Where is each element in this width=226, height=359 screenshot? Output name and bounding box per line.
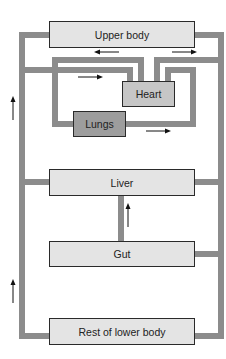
pipe-left-outer <box>19 32 25 339</box>
node-gut-label: Gut <box>114 248 131 260</box>
arrow-right-icon <box>78 74 104 80</box>
node-lungs-label: Lungs <box>85 118 114 130</box>
node-upper-body: Upper body <box>49 21 195 48</box>
pipe-aorta-top <box>154 57 224 63</box>
pipe-upper-right-stub <box>194 32 224 38</box>
arrow-right-icon <box>146 128 172 134</box>
node-lungs: Lungs <box>73 111 126 137</box>
node-gut: Gut <box>49 241 195 267</box>
pipe-lower-right <box>194 333 224 339</box>
node-heart: Heart <box>122 81 175 107</box>
node-lower-body-label: Rest of lower body <box>79 326 166 338</box>
arrow-up-icon <box>10 96 16 120</box>
pipe-to-heart-horizontal <box>19 67 133 73</box>
pipe-portal-vein <box>118 194 124 242</box>
pipe-to-heart-vertical <box>127 67 133 82</box>
arrow-up-icon <box>10 279 16 303</box>
node-upper-body-label: Upper body <box>95 29 149 41</box>
pipe-pulmonary-heart-down <box>138 57 144 82</box>
node-lower-body: Rest of lower body <box>49 318 195 345</box>
pipe-liver-left <box>19 179 50 185</box>
pipe-gut-right <box>194 251 224 257</box>
pipe-lower-left <box>19 333 50 339</box>
node-liver-label: Liver <box>111 177 134 189</box>
arrow-right-icon <box>172 49 198 55</box>
pipe-liver-right <box>194 179 224 185</box>
pipe-pulmonary-bottom-left <box>52 121 74 127</box>
arrow-left-icon <box>94 49 120 55</box>
pipe-pulmonary-top <box>52 57 144 63</box>
arrow-up-icon <box>125 203 131 227</box>
pipe-lungs-return-right <box>190 67 196 127</box>
pipe-pulmonary-left <box>52 57 58 127</box>
pipe-upper-left-stub <box>19 32 50 38</box>
pipe-lungs-return-down <box>165 67 171 82</box>
pipe-right-outer <box>218 32 224 339</box>
pipe-lungs-return-bottom <box>125 121 196 127</box>
node-heart-label: Heart <box>136 88 162 100</box>
node-liver: Liver <box>49 169 195 196</box>
